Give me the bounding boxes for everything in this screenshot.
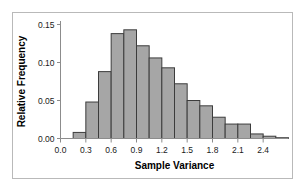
bars-group [73,30,288,139]
histogram-bar [225,124,238,138]
histogram-bar [162,68,175,139]
x-axis-tick-label: 0.6 [105,145,117,155]
histogram-bar [251,134,264,139]
y-axis-tick-label: 0.05 [38,96,55,106]
histogram-bar [137,46,150,139]
x-axis-tick-label: 1.8 [207,145,219,155]
histogram-bar [73,132,86,138]
x-axis-tick-label: 0.9 [131,145,143,155]
histogram-bar [187,101,200,139]
x-axis-tick-label: 0.0 [55,145,67,155]
y-axis-tick-label: 0.15 [38,20,55,30]
histogram-bar [238,124,251,138]
y-axis-tick-label: 0.10 [38,58,55,68]
x-axis-tick-label: 2.1 [232,145,244,155]
histogram-bar [149,58,162,139]
x-axis-tick-label: 0.3 [80,145,92,155]
y-axis-title: Relative Frequency [16,35,27,127]
x-axis-tick-label: 1.2 [156,145,168,155]
histogram-chart: 0.000.050.100.15Relative Frequency0.00.3… [0,0,305,191]
histogram-bar [213,117,226,138]
x-axis-title: Sample Variance [135,160,215,171]
histogram-bar [175,84,188,139]
x-axis-tick-label: 2.4 [257,145,269,155]
histogram-bar [111,34,124,139]
histogram-bar [124,30,137,139]
x-axis-tick-label: 1.5 [181,145,193,155]
histogram-bar [86,102,99,138]
figure-canvas: 0.000.050.100.15Relative Frequency0.00.3… [0,0,305,191]
y-axis-tick-label: 0.00 [38,134,55,144]
histogram-bar [99,72,112,139]
histogram-bar [200,106,213,139]
